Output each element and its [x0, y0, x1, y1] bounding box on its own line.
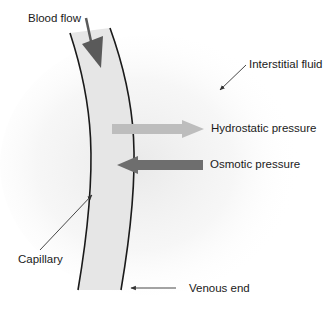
capillary-label: Capillary	[18, 254, 63, 266]
blood-flow-label: Blood flow	[28, 13, 81, 25]
osmotic-pressure-label: Osmotic pressure	[210, 159, 300, 171]
capillary-diagram: Blood flow Interstitial fluid Hydrostati…	[0, 0, 334, 309]
hydrostatic-pressure-label: Hydrostatic pressure	[211, 123, 316, 135]
venous-end-label: Venous end	[189, 283, 250, 295]
interstitial-fluid-label: Interstitial fluid	[249, 59, 323, 71]
